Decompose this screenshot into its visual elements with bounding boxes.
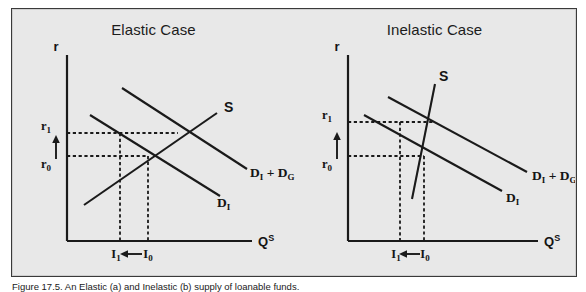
figure-plate: Elastic Case (11, 8, 577, 277)
supply-label-inelastic: S (439, 68, 448, 84)
demand-private-curve-inelastic (364, 115, 502, 191)
x-axis-label-elastic: QS (258, 233, 274, 249)
rate-label-r0-inelastic: r0 (322, 157, 333, 173)
demand-total-curve-inelastic (388, 97, 527, 172)
y-axis-label-elastic: r (53, 39, 58, 54)
rate-label-r1-elastic: r1 (41, 119, 52, 135)
quantity-label-i1-inelastic: I1 (391, 247, 401, 263)
demand-private-label-inelastic: DI (506, 190, 520, 207)
panel-inelastic: Inelastic Case (293, 9, 576, 276)
x-axis-label-sup-inelastic: S (554, 233, 560, 243)
rate-arrow-head-inelastic (333, 132, 341, 140)
demand-private-label-elastic: DI (217, 195, 231, 212)
supply-curve-elastic (84, 113, 217, 205)
investment-arrow-head-elastic (120, 250, 128, 257)
x-axis-label-inelastic: QS (544, 233, 560, 249)
plot-elastic: r QS r1 r0 I1 I0 S (12, 9, 295, 276)
quantity-label-i0-inelastic: I0 (420, 247, 430, 263)
x-axis-label-sup-elastic: S (268, 233, 274, 243)
demand-total-label-inelastic: DI + DG (532, 168, 576, 185)
demand-total-label-elastic: DI + DG (250, 165, 294, 182)
rate-arrow-head-elastic (52, 135, 60, 143)
x-axis-label-base-elastic: Q (258, 234, 268, 249)
rate-label-r0-elastic: r0 (41, 157, 52, 173)
supply-label-elastic: S (224, 99, 233, 115)
rate-label-r1-inelastic: r1 (322, 108, 333, 124)
figure-caption: Figure 17.5. An Elastic (a) and Inelasti… (12, 281, 572, 292)
y-axis-label-inelastic: r (334, 39, 339, 54)
quantity-label-i0-elastic: I0 (143, 247, 153, 263)
x-axis-label-base-inelastic: Q (544, 234, 554, 249)
quantity-label-i1-elastic: I1 (111, 247, 121, 263)
panel-elastic: Elastic Case (12, 9, 295, 276)
plot-inelastic: r QS r1 r0 I1 I0 S (293, 9, 576, 276)
